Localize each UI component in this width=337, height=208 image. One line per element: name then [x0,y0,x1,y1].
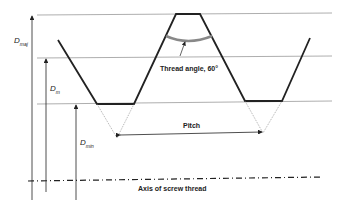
thread-angle-arc [166,36,212,41]
thread-angle-label: Thread angle, 60° [160,65,218,72]
thread-profile [58,14,310,104]
d-minor-label: Dmin [80,138,94,149]
thread-diagram [0,0,337,208]
root-extension-left [97,104,134,138]
thread-angle-pointer [180,42,185,56]
mean-diameter-line [37,56,332,58]
pitch-label: Pitch [183,122,200,129]
axis-label: Axis of screw thread [138,185,206,192]
root-extension-right [245,101,282,133]
d-mean-label: Dm [50,84,60,95]
minor-diameter-line [37,101,332,104]
screw-axis-line [28,177,322,181]
pitch-arrow [120,132,262,135]
d-major-label: Dmaj [14,36,28,47]
